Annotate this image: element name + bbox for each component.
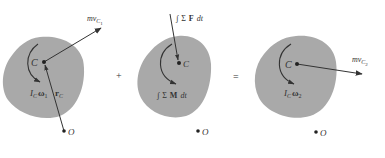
origin-point <box>196 129 200 133</box>
center-of-mass-point <box>42 60 46 64</box>
origin-label: O <box>68 127 75 137</box>
origin-label: O <box>320 128 327 138</box>
center-label: C <box>285 59 292 70</box>
center-of-mass-point <box>177 61 181 65</box>
origin-label: O <box>202 127 209 137</box>
linear-momentum-label: mvC1 <box>87 14 103 26</box>
origin-point <box>62 129 66 133</box>
angular-impulse-label: ∫ Σ M dt <box>156 91 187 100</box>
center-of-mass-point <box>295 62 299 66</box>
origin-point <box>314 130 318 134</box>
rigid-body-shape <box>3 37 84 118</box>
panel-final-momentum: C O mvC2 ICω2 <box>255 36 368 138</box>
plus-operator: + <box>116 70 122 81</box>
linear-momentum-label: mvC2 <box>352 55 368 67</box>
panel-initial-momentum: C O mvC1 ICω1 rC <box>3 14 103 137</box>
equals-operator: = <box>233 71 239 82</box>
panel-impulses: C O ∫ Σ F dt ∫ Σ M dt <box>137 14 211 137</box>
center-label: C <box>31 57 38 68</box>
linear-impulse-label: ∫ Σ F dt <box>175 14 204 23</box>
impulse-momentum-diagram: C O mvC1 ICω1 rC + C O ∫ Σ F dt ∫ Σ <box>0 0 385 158</box>
center-label: C <box>183 59 190 69</box>
rigid-body-shape <box>137 36 211 118</box>
rigid-body-shape <box>255 36 337 118</box>
